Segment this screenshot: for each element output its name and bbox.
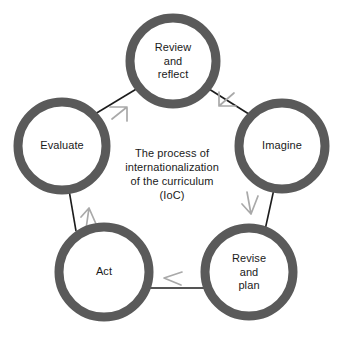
node-ring-review-and-reflect[interactable] (130, 18, 216, 104)
node-ring-group (18, 18, 325, 317)
connector-line-evaluate-to-review (95, 88, 138, 114)
arrowhead-imagine-to-revise (242, 192, 258, 214)
connector-revise-to-act (150, 272, 204, 288)
ioc-cycle-diagram: Review and reflect Imagine Revise and pl… (0, 0, 343, 338)
node-ring-evaluate[interactable] (18, 102, 106, 190)
connector-line-imagine-to-revise (265, 189, 274, 230)
connector-line-act-to-evaluate (69, 190, 76, 231)
connector-line-review-to-imagine (209, 89, 252, 116)
cycle-diagram-canvas (0, 0, 343, 338)
arrowhead-evaluate-to-review (110, 107, 127, 121)
connector-evaluate-to-review (95, 88, 138, 121)
node-ring-revise-and-plan[interactable] (205, 228, 293, 316)
connector-review-to-imagine (209, 89, 252, 116)
node-ring-act[interactable] (59, 227, 149, 317)
node-ring-imagine[interactable] (239, 103, 325, 189)
arrowhead-revise-to-act (164, 272, 182, 285)
